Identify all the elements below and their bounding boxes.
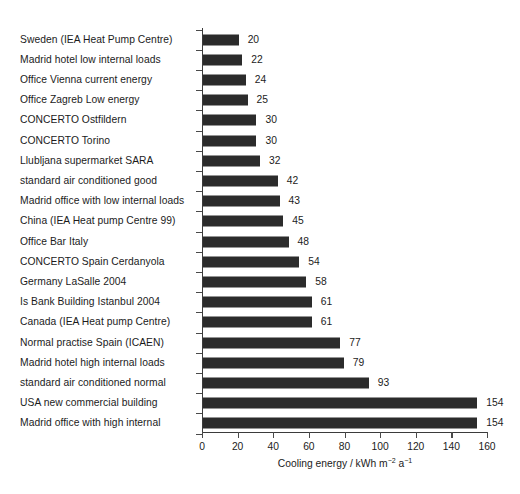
category-tick xyxy=(196,333,202,334)
bar-row: Canada (IEA Heat pump Centre)61 xyxy=(0,312,520,332)
bar-row: standard air conditioned normal93 xyxy=(0,373,520,393)
bar xyxy=(203,236,289,247)
bar-value-label: 30 xyxy=(265,135,276,147)
bar-row: CONCERTO Ostfildern30 xyxy=(0,110,520,130)
value-tick-label: 140 xyxy=(443,440,460,453)
bar xyxy=(203,196,280,207)
category-label: Office Bar Italy xyxy=(20,236,192,248)
category-label: Office Vienna current energy xyxy=(20,74,192,86)
bar-value-label: 30 xyxy=(265,114,276,126)
value-tick xyxy=(273,432,274,438)
bar-value-label: 48 xyxy=(298,236,309,248)
bar-value-label: 45 xyxy=(292,215,303,227)
category-tick xyxy=(196,292,202,293)
bar xyxy=(203,115,256,126)
category-tick xyxy=(196,312,202,313)
x-axis-title-sup-1: −2 xyxy=(388,457,396,464)
category-label: USA new commercial building xyxy=(20,397,192,409)
bar-row: Germany LaSalle 200458 xyxy=(0,272,520,292)
category-label: Llubljana supermarket SARA xyxy=(20,155,192,167)
bar-value-label: 61 xyxy=(321,316,332,328)
bar-row: Madrid office with low internal loads43 xyxy=(0,191,520,211)
bar xyxy=(203,398,477,409)
value-tick-label: 0 xyxy=(199,440,205,453)
cooling-energy-bar-chart: Sweden (IEA Heat Pump Centre)20Madrid ho… xyxy=(0,0,520,494)
bar-row: standard air conditioned good42 xyxy=(0,171,520,191)
bar-row: Sweden (IEA Heat Pump Centre)20 xyxy=(0,30,520,50)
bar xyxy=(203,317,312,328)
bar xyxy=(203,276,306,287)
bar-row: Normal practise Spain (ICAEN)77 xyxy=(0,333,520,353)
category-tick xyxy=(196,393,202,394)
category-label: CONCERTO Ostfildern xyxy=(20,114,192,126)
bar xyxy=(203,216,283,227)
category-tick xyxy=(196,353,202,354)
value-tick xyxy=(487,432,488,438)
category-label: standard air conditioned good xyxy=(20,175,192,187)
category-label: Office Zagreb Low energy xyxy=(20,94,192,106)
bar-value-label: 93 xyxy=(378,377,389,389)
bar-row: Madrid office with high internal154 xyxy=(0,413,520,433)
bar-value-label: 20 xyxy=(248,34,259,46)
value-tick xyxy=(309,432,310,438)
category-label: Madrid office with high internal xyxy=(20,417,192,429)
value-tick-label: 40 xyxy=(268,440,279,453)
bar xyxy=(203,357,344,368)
category-tick xyxy=(196,151,202,152)
value-tick xyxy=(345,432,346,438)
value-tick-label: 60 xyxy=(303,440,314,453)
category-tick xyxy=(196,131,202,132)
category-tick xyxy=(196,30,202,31)
category-label: Madrid hotel high internal loads xyxy=(20,357,192,369)
bar-value-label: 54 xyxy=(308,256,319,268)
bar-row: Is Bank Building Istanbul 200461 xyxy=(0,292,520,312)
value-tick-label: 80 xyxy=(339,440,350,453)
category-tick xyxy=(196,272,202,273)
value-tick xyxy=(416,432,417,438)
bar-value-label: 43 xyxy=(289,195,300,207)
value-tick xyxy=(451,432,452,438)
bar-value-label: 154 xyxy=(486,417,503,429)
x-axis-title-text-before: Cooling energy / kWh m xyxy=(278,458,388,469)
category-tick xyxy=(196,211,202,212)
category-tick xyxy=(196,50,202,51)
bar-value-label: 22 xyxy=(251,54,262,66)
category-label: Madrid office with low internal loads xyxy=(20,195,192,207)
value-tick xyxy=(238,432,239,438)
bar xyxy=(203,155,260,166)
category-tick xyxy=(196,171,202,172)
category-tick xyxy=(196,90,202,91)
category-tick xyxy=(196,191,202,192)
bar-row: Office Zagreb Low energy25 xyxy=(0,90,520,110)
category-label: Canada (IEA Heat pump Centre) xyxy=(20,316,192,328)
bar-row: China (IEA Heat pump Centre 99)45 xyxy=(0,211,520,231)
category-label: China (IEA Heat pump Centre 99) xyxy=(20,215,192,227)
x-axis-title-text-middle: a xyxy=(396,458,405,469)
category-label: Sweden (IEA Heat Pump Centre) xyxy=(20,34,192,46)
category-label: Is Bank Building Istanbul 2004 xyxy=(20,296,192,308)
x-axis-title: Cooling energy / kWh m−2 a−1 xyxy=(202,458,488,469)
value-tick-label: 160 xyxy=(478,440,495,453)
bar xyxy=(203,418,477,429)
bar xyxy=(203,256,299,267)
value-tick xyxy=(380,432,381,438)
bar xyxy=(203,34,239,45)
bar-value-label: 32 xyxy=(269,155,280,167)
category-tick xyxy=(196,232,202,233)
x-axis-title-sup-2: −1 xyxy=(404,457,412,464)
category-tick xyxy=(196,110,202,111)
bar xyxy=(203,175,278,186)
bar-row: Madrid hotel high internal loads79 xyxy=(0,353,520,373)
category-label: Germany LaSalle 2004 xyxy=(20,276,192,288)
category-label: Normal practise Spain (ICAEN) xyxy=(20,337,192,349)
category-tick xyxy=(196,373,202,374)
bar-row: CONCERTO Torino30 xyxy=(0,131,520,151)
bar xyxy=(203,95,248,106)
value-tick-label: 120 xyxy=(407,440,424,453)
bar-row: Office Vienna current energy24 xyxy=(0,70,520,90)
value-tick-label: 100 xyxy=(372,440,389,453)
category-label: CONCERTO Spain Cerdanyola xyxy=(20,256,192,268)
bar-value-label: 42 xyxy=(287,175,298,187)
bar-row: USA new commercial building154 xyxy=(0,393,520,413)
bar-value-label: 77 xyxy=(349,337,360,349)
